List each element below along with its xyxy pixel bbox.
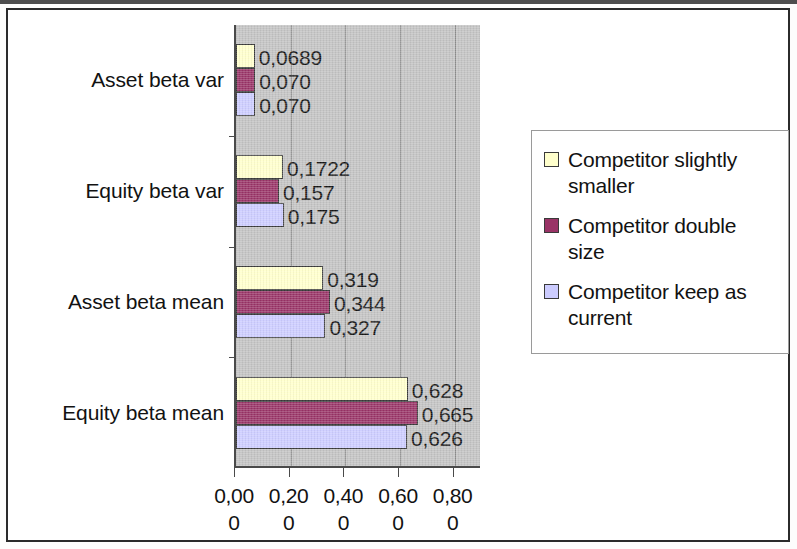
x-axis-tick [289,468,290,477]
bar-0-0 [236,44,255,68]
legend-label: Competitor keep as current [568,279,778,331]
category-label-2: Asset beta mean [4,290,224,314]
legend-label: Competitor double size [568,213,778,265]
x-axis-tick [234,468,235,477]
category-label-1: Equity beta var [4,179,224,203]
legend-swatch-icon [544,152,559,167]
bar-value-label: 0,1722 [287,158,350,179]
bar-2-2 [236,314,325,338]
bar-value-label: 0,070 [259,71,311,92]
bar-value-label: 0,344 [334,293,386,314]
legend-swatch-icon [544,218,559,233]
legend-item-1[interactable]: Competitor double size [544,213,778,265]
bar-0-2 [236,266,323,290]
legend-swatch-icon [544,284,559,299]
chart-legend: Competitor slightly smallerCompetitor do… [531,130,789,354]
x-axis-tick [453,468,454,477]
scan-edge-artifact [0,0,797,4]
category-separator-tick [229,247,236,248]
bar-1-2 [236,290,330,314]
bar-1-0 [236,68,255,92]
x-axis-tick [343,468,344,477]
x-axis-tick [398,468,399,477]
plot-area: 0,06890,0700,0700,17220,1570,1750,3190,3… [234,25,480,468]
bar-value-label: 0,626 [411,428,463,449]
bar-value-label: 0,175 [288,206,340,227]
bar-value-label: 0,628 [412,380,464,401]
bar-2-0 [236,92,255,116]
bar-1-3 [236,401,418,425]
legend-item-2[interactable]: Competitor keep as current [544,279,778,331]
bar-value-label: 0,0689 [259,47,322,68]
bar-1-1 [236,179,279,203]
bar-value-label: 0,157 [283,182,335,203]
legend-item-0[interactable]: Competitor slightly smaller [544,147,778,199]
bar-value-label: 0,327 [329,317,381,338]
x-axis-label: 0,800 [417,482,489,536]
bar-value-label: 0,070 [259,95,311,116]
category-separator-tick [229,357,236,358]
bar-2-1 [236,203,284,227]
legend-label: Competitor slightly smaller [568,147,778,199]
chart-figure: Asset beta varEquity beta varAsset beta … [0,0,797,549]
bar-2-3 [236,425,407,449]
category-label-3: Equity beta mean [4,401,224,425]
bar-0-1 [236,155,283,179]
category-axis-labels: Asset beta varEquity beta varAsset beta … [0,25,224,468]
bar-0-3 [236,377,408,401]
category-label-0: Asset beta var [4,68,224,92]
category-separator-tick [229,136,236,137]
bar-value-label: 0,319 [327,269,379,290]
bar-value-label: 0,665 [422,404,474,425]
